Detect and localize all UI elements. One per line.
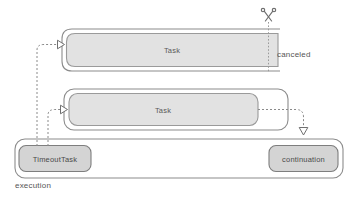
canceled-side-label: canceled xyxy=(277,50,311,59)
arrow-timeout-to-canceled-task xyxy=(37,40,65,146)
continuation-label: continuation xyxy=(282,154,325,163)
diagram-canvas xyxy=(0,0,355,202)
arrow-task-to-continuation-head xyxy=(299,128,308,136)
arrow-timeout-to-canceled-task-line xyxy=(37,45,58,147)
completed-task-label: Task xyxy=(155,105,171,114)
task-cancellation-diagram: Task canceled Task TimeoutTask continuat… xyxy=(0,0,355,202)
scissors-icon xyxy=(261,8,275,21)
completed-task-row xyxy=(64,89,288,130)
timeout-task-label: TimeoutTask xyxy=(33,154,77,163)
execution-label: execution xyxy=(15,181,51,190)
canceled-task-label: Task xyxy=(164,46,180,55)
